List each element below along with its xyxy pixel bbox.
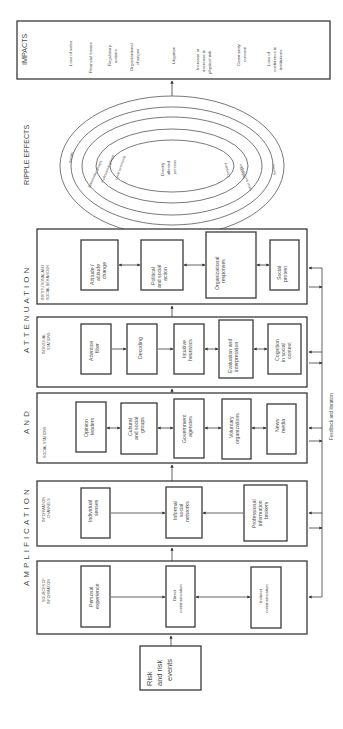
box-label: communication [264, 583, 269, 613]
box-label: filter [94, 343, 100, 353]
box-label: media [280, 419, 286, 433]
box-label: action [162, 267, 168, 281]
impact-item: Loss of [266, 51, 271, 66]
ripple-ring-label: Stakeholder groups [87, 160, 103, 189]
attenuation-heading: ATTENUATION [22, 265, 31, 353]
box-label: senses [93, 499, 99, 516]
feedback-label: Feedback and iteration [329, 393, 334, 440]
box-label: protest [282, 266, 288, 282]
box-label: groups [139, 417, 145, 433]
panel-label: INFORMATION [42, 497, 46, 522]
ripple-ellipses: Directly affected persons Local communit… [60, 96, 284, 236]
impact-item: changes [135, 49, 140, 65]
impact-item: physical risk [207, 50, 212, 74]
panel-label: SOCIAL STATIONS [43, 426, 47, 458]
box-label: networks [184, 501, 190, 522]
impact-item: Regulatory [107, 44, 112, 66]
box-label: communication [178, 583, 183, 613]
panel-individual-stations: INDIVIDUAL STATIONS Attention filter Dec… [37, 317, 307, 387]
box-label: responses [220, 259, 226, 283]
ripple-center: Directly [160, 163, 165, 176]
impact-item: Litigation [171, 46, 176, 64]
impact-item: Community [236, 43, 241, 66]
panel-label: STATIONS [47, 332, 51, 350]
panel-label: INDIVIDUAL [42, 334, 46, 354]
impact-item: Organizational [129, 43, 134, 71]
panel-label: CHANNELS [47, 498, 51, 518]
panel-label: SOURCES OF [42, 577, 46, 602]
box-label: context [286, 342, 292, 359]
panel-label: SOCIAL BEHAVIOUR [46, 265, 50, 300]
ripple-ring-label: Professional groups [100, 154, 115, 184]
box-label: organizations [234, 413, 240, 444]
box-label: Decoding [137, 337, 143, 359]
box-label: Direct [172, 589, 177, 601]
impact-item: Loss of sales [68, 41, 73, 66]
impact-item: actions [113, 49, 118, 63]
box-label: interpretation [233, 342, 239, 372]
impact-item: Financial losses [88, 42, 93, 73]
box-label: and risk [155, 659, 164, 686]
ripple-ring-label: Society [271, 164, 277, 176]
panel-institutional-behaviour: INSTITUTIONAL AND SOCIAL BEHAVIOUR Attit… [37, 229, 307, 304]
panel-sources-of-information: SOURCES OF INFORMATION Personal experien… [37, 561, 307, 634]
box-label: heuristics [187, 339, 193, 361]
ripple-ring-label: Company [223, 162, 231, 177]
box-label: change [101, 262, 107, 279]
impact-item: Increase or [195, 48, 200, 70]
impact-item: institutions [278, 50, 283, 70]
box-label: experience [94, 584, 100, 609]
box-label: brokers [263, 501, 269, 519]
impacts-heading: IMPACTS [20, 33, 29, 65]
impact-item: confidence in [272, 46, 277, 72]
box-label: events [165, 659, 174, 681]
panel-label: INSTITUTIONAL AND [41, 264, 45, 300]
impact-item: decrease in [201, 49, 206, 72]
risk-events-box: Risk and risk events [140, 646, 201, 690]
box-label: Indirect [258, 588, 263, 603]
box-label: leaders [89, 418, 95, 435]
ripple-center: affected [166, 161, 171, 175]
box-label: agencies [187, 416, 193, 437]
ripple-ring-label: Local community [114, 155, 127, 181]
sarf-diagram: IMPACTS Loss of sales Financial losses R… [0, 0, 343, 729]
panel-label: INFORMATION [47, 579, 51, 604]
ripple-ring-label: Society [68, 151, 74, 163]
impact-item: concern [242, 46, 247, 62]
ripple-effects-heading: RIPPLE EFFECTS [22, 124, 31, 185]
box-label: Risk [145, 671, 154, 686]
panel-information-channels: INFORMATION CHANNELS Individual senses I… [37, 481, 307, 546]
panel-social-stations: SOCIAL STATIONS Opinion leaders Cultural… [37, 393, 307, 463]
feedback-loop: Feedback and iteration [309, 268, 334, 597]
ripple-center: persons [172, 160, 177, 174]
impacts-panel: IMPACTS Loss of sales Financial losses R… [17, 21, 330, 79]
and-heading: AND [22, 408, 31, 434]
amplification-heading: AMPLIFICATION [22, 486, 31, 586]
